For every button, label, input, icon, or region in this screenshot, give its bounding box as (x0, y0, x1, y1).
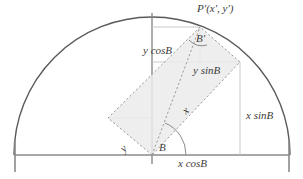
label-y-sin-b: y sinB (193, 65, 220, 76)
rotated-rectangle-fill (108, 27, 240, 155)
diagram-canvas (0, 0, 303, 179)
label-x-sin-b: x sinB (246, 110, 273, 121)
label-angle-b-origin: B (159, 142, 166, 153)
label-y-cos-b: y cosB (143, 45, 172, 56)
label-x-cos-b: x cosB (178, 158, 207, 169)
label-point-p-prime: P′(x′, y′) (197, 3, 234, 14)
rotation-diagram-figure: P′(x′, y′) B′ y cosB y sinB x sinB x cos… (0, 0, 303, 179)
label-angle-b-prime: B′ (196, 33, 205, 44)
